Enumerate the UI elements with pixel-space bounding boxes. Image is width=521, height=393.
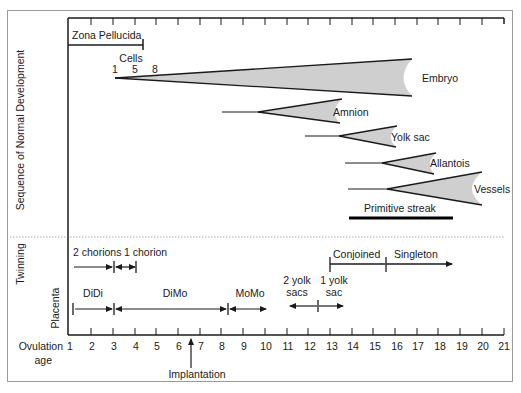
allantois-label: Allantois	[430, 157, 470, 169]
x-tick-label: 2	[89, 340, 95, 352]
x-tick-label: 15	[369, 340, 381, 352]
x-axis-labels: 1 2 3 4 5 6 7 8 9 10 11 12 13 14 15 16 1…	[67, 340, 510, 352]
x-tick-label: 10	[260, 340, 272, 352]
x-tick-label: 3	[111, 340, 117, 352]
didi-label: DiDi	[83, 287, 103, 299]
singleton-label: Singleton	[394, 248, 438, 260]
x-tick-label: 12	[304, 340, 316, 352]
one-yolk-sac-label-1: 1 yolk	[320, 274, 348, 286]
cell-count-8: 8	[152, 63, 158, 75]
x-tick-label: 19	[456, 340, 468, 352]
x-tick-label: 13	[326, 340, 338, 352]
x-tick-label: 7	[198, 340, 204, 352]
section-label-twinning: Twinning	[14, 243, 26, 285]
x-axis-title-line1: Ovulation	[19, 340, 64, 352]
section-label-placenta: Placenta	[49, 287, 61, 328]
cell-count-1: 1	[112, 63, 118, 75]
section-label-normal-line1: Sequence of Normal Development	[14, 50, 26, 211]
x-tick-label: 21	[498, 340, 510, 352]
dimo-label: DiMo	[163, 287, 188, 299]
yolk-sac-label: Yolk sac	[391, 131, 430, 143]
x-tick-label: 8	[219, 340, 225, 352]
x-tick-label: 11	[283, 340, 294, 352]
primitive-streak-label: Primitive streak	[364, 202, 437, 214]
x-tick-label: 16	[391, 340, 403, 352]
bottom-axis-ticks	[91, 328, 504, 335]
x-tick-label: 20	[477, 340, 489, 352]
implantation-label: Implantation	[168, 368, 225, 380]
x-tick-label: 14	[347, 340, 359, 352]
one-chorion-label: 1 chorion	[124, 246, 167, 258]
amnion-wedge	[258, 99, 342, 123]
allantois-wedge	[382, 153, 436, 174]
x-tick-label: 1	[67, 340, 73, 352]
x-tick-label: 5	[154, 340, 160, 352]
x-tick-label: 18	[434, 340, 446, 352]
amnion-label: Amnion	[333, 106, 369, 118]
yolk-sac-wedge	[339, 126, 397, 147]
x-tick-label: 17	[412, 340, 424, 352]
zona-pellucida-label: Zona Pellucida	[72, 29, 142, 41]
embryo-label: Embryo	[422, 72, 458, 84]
x-tick-label: 9	[241, 340, 247, 352]
one-yolk-sac-label-2: sac	[326, 286, 342, 298]
cell-count-5: 5	[132, 63, 138, 75]
two-chorions-label: 2 chorions	[73, 246, 121, 258]
momo-label: MoMo	[235, 287, 264, 299]
x-axis-title-line2: age	[34, 354, 52, 366]
top-axis-ticks	[91, 18, 482, 25]
cells-label: Cells	[119, 52, 142, 64]
development-diagram: 1 2 3 4 5 6 7 8 9 10 11 12 13 14 15 16 1…	[0, 0, 521, 393]
vessels-wedge	[387, 172, 482, 205]
two-yolk-sacs-label-2: sacs	[286, 286, 308, 298]
vessels-label: Vessels	[474, 183, 510, 195]
two-yolk-sacs-label-1: 2 yolk	[283, 274, 311, 286]
x-tick-label: 6	[176, 340, 182, 352]
conjoined-label: Conjoined	[333, 248, 380, 260]
embryo-wedge	[115, 59, 412, 96]
x-tick-label: 4	[133, 340, 139, 352]
